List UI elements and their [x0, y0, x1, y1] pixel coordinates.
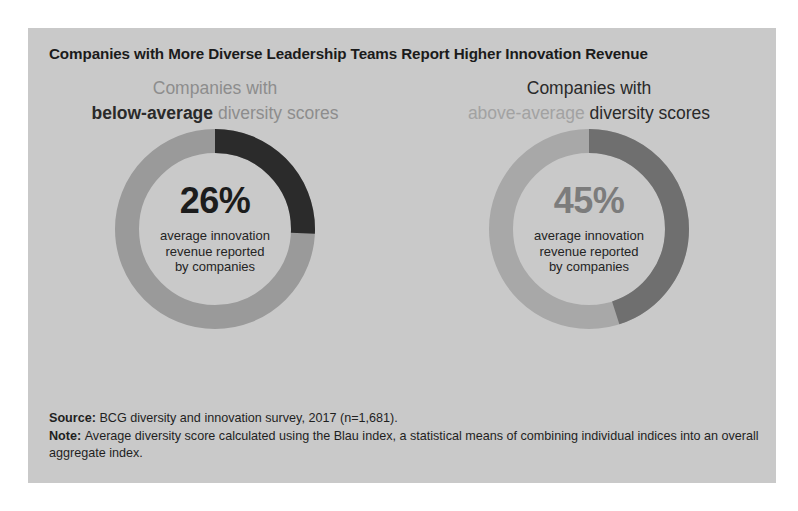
donut-left-sublabel-line1: average innovation: [160, 228, 270, 244]
footnotes: Source: BCG diversity and innovation sur…: [49, 410, 761, 463]
donut-chart-below-average: 26% average innovation revenue reported …: [115, 129, 315, 329]
panel-right-heading-line1: Companies with: [402, 76, 776, 101]
panel-right-heading-rest-text: diversity scores: [590, 103, 711, 123]
donut-left-sublabel-line3: by companies: [160, 259, 270, 275]
panel-left-heading-emphasis: below-average: [91, 103, 213, 123]
panel-above-average: Companies with above-average diversity s…: [402, 72, 776, 392]
panel-left-heading-line2: below-average diversity scores: [28, 101, 402, 126]
donut-left-percent: 26%: [180, 183, 251, 219]
donut-right-sublabel-line1: average innovation: [534, 228, 644, 244]
panel-left-heading-line1: Companies with: [28, 76, 402, 101]
panel-below-average: Companies with below-average diversity s…: [28, 72, 402, 392]
donut-left-center: 26% average innovation revenue reported …: [115, 129, 315, 329]
chart-title: Companies with More Diverse Leadership T…: [49, 45, 755, 62]
donut-right-center: 45% average innovation revenue reported …: [489, 129, 689, 329]
source-label: Source:: [49, 411, 96, 425]
chart-card: Companies with More Diverse Leadership T…: [28, 28, 776, 483]
panel-right-heading-line2: above-average diversity scores: [402, 101, 776, 126]
donut-left-sublabel-line2: revenue reported: [160, 244, 270, 260]
source-text: BCG diversity and innovation survey, 201…: [99, 411, 397, 425]
donut-right-sublabel-line3: by companies: [534, 259, 644, 275]
donut-panels: Companies with below-average diversity s…: [28, 72, 776, 392]
donut-right-sublabel-line2: revenue reported: [534, 244, 644, 260]
note-text: Average diversity score calculated using…: [49, 429, 759, 461]
panel-left-heading-rest-text: diversity scores: [218, 103, 339, 123]
source-note: Source: BCG diversity and innovation sur…: [49, 410, 761, 428]
donut-left-sublabel: average innovation revenue reported by c…: [160, 228, 270, 275]
panel-right-heading: Companies with above-average diversity s…: [402, 76, 776, 126]
donut-chart-above-average: 45% average innovation revenue reported …: [489, 129, 689, 329]
donut-right-percent: 45%: [554, 183, 625, 219]
note-label: Note:: [49, 429, 81, 443]
panel-left-heading: Companies with below-average diversity s…: [28, 76, 402, 126]
method-note: Note: Average diversity score calculated…: [49, 428, 761, 463]
panel-right-heading-emphasis: above-average: [468, 103, 585, 123]
donut-right-sublabel: average innovation revenue reported by c…: [534, 228, 644, 275]
